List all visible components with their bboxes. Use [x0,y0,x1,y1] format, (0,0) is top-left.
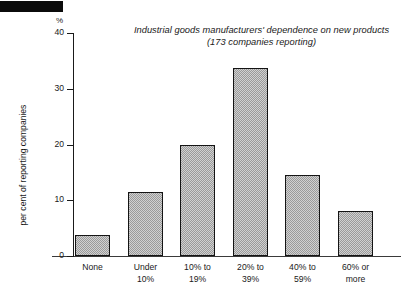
x-tick-label-line: 39% [221,274,280,286]
x-tick-label-line: Under [116,262,175,274]
bar [180,145,215,257]
x-tick-label-line: 19% [168,274,227,286]
x-tick-label-line: more [326,274,385,286]
bar [338,211,373,256]
x-tick-label-line: 10% [116,274,175,286]
chart-figure: Industrial goods manufacturers' dependen… [0,0,407,296]
bar [128,192,163,256]
x-tick-label: 20% to39% [221,262,280,285]
x-tick-label-line: None [63,262,122,274]
plot-area: NoneUnder10%10% to19%20% to39%40% to59%6… [0,0,407,296]
x-tick-label: Under10% [116,262,175,285]
x-tick-label: 60% ormore [326,262,385,285]
x-tick-label-line: 20% to [221,262,280,274]
x-tick-label-line: 40% to [273,262,332,274]
x-tick-label-line: 59% [273,274,332,286]
bar [285,175,320,256]
x-tick-label: 10% to19% [168,262,227,285]
bar [233,68,268,256]
bar [75,235,110,256]
x-tick-label: 40% to59% [273,262,332,285]
x-tick-label-line: 60% or [326,262,385,274]
x-tick-label-line: 10% to [168,262,227,274]
x-tick-label: None [63,262,122,274]
